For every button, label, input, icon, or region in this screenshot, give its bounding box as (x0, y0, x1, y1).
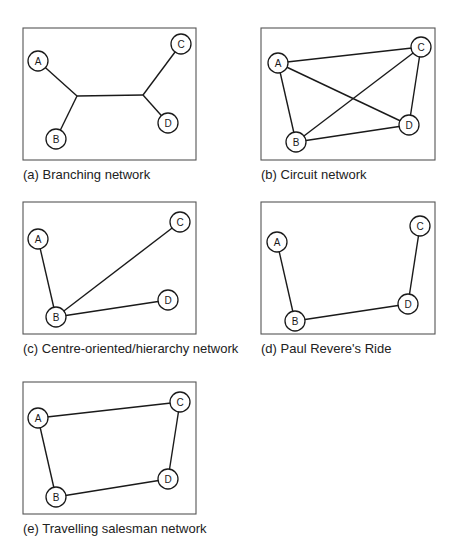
edge-B-A (38, 418, 56, 497)
svg-text:B: B (293, 137, 300, 148)
edge-A-D (278, 63, 409, 125)
node-A: A (28, 229, 48, 249)
panel-a: ABCD (23, 28, 196, 160)
svg-text:A: A (274, 237, 281, 248)
edge-A-B (38, 239, 56, 317)
svg-text:C: C (176, 397, 183, 408)
edge-B-D (296, 125, 409, 142)
svg-text:D: D (405, 120, 412, 131)
edge-A-B (278, 63, 296, 142)
node-D: D (158, 469, 178, 489)
node-C: C (170, 212, 190, 232)
node-C: C (170, 392, 190, 412)
node-B: B (285, 311, 305, 331)
node-D: D (398, 294, 418, 314)
panel-b: ABCD (261, 28, 435, 160)
edge-C-D (168, 402, 180, 479)
svg-text:B: B (53, 134, 60, 145)
caption-paul-reveres-ride: (d) Paul Revere's Ride (261, 341, 391, 356)
edge-A-B (277, 242, 295, 321)
edge-D-B (56, 479, 168, 497)
svg-text:A: A (35, 234, 42, 245)
svg-text:C: C (177, 39, 184, 50)
caption-centre-oriented-network: (c) Centre-oriented/hierarchy network (23, 341, 238, 356)
node-B: B (46, 307, 66, 327)
node-C: C (171, 34, 191, 54)
panel-e: ABCD (23, 382, 196, 514)
node-D: D (158, 290, 178, 310)
edge-A-C (38, 402, 180, 418)
edge-D-C (408, 226, 420, 304)
svg-text:D: D (164, 295, 171, 306)
caption-circuit-network: (b) Circuit network (261, 167, 366, 182)
svg-text:B: B (53, 492, 60, 503)
edge-C-D (409, 47, 421, 125)
node-A: A (268, 53, 288, 73)
node-B: B (46, 487, 66, 507)
svg-text:A: A (275, 58, 282, 69)
panel-c: ABCD (23, 202, 196, 334)
svg-text:B: B (292, 316, 299, 327)
svg-text:C: C (417, 42, 424, 53)
svg-text:D: D (404, 299, 411, 310)
caption-branching-network: (a) Branching network (23, 167, 150, 182)
edge-A-C (278, 47, 421, 63)
svg-text:A: A (35, 56, 42, 67)
node-B: B (46, 129, 66, 149)
node-C: C (410, 216, 430, 236)
edge-B-D (295, 304, 408, 321)
svg-text:D: D (164, 474, 171, 485)
node-C: C (411, 37, 431, 57)
edge-J1-J2 (77, 95, 143, 96)
node-D: D (158, 113, 178, 133)
svg-text:D: D (164, 118, 171, 129)
node-A: A (28, 408, 48, 428)
svg-text:C: C (416, 221, 423, 232)
panel-d: ABCD (261, 202, 435, 334)
svg-text:A: A (35, 413, 42, 424)
node-A: A (28, 51, 48, 71)
edge-B-D (56, 300, 168, 317)
node-A: A (267, 232, 287, 252)
svg-text:C: C (176, 217, 183, 228)
caption-travelling-salesman-network: (e) Travelling salesman network (23, 521, 207, 536)
svg-text:B: B (53, 312, 60, 323)
node-D: D (399, 115, 419, 135)
node-B: B (286, 132, 306, 152)
